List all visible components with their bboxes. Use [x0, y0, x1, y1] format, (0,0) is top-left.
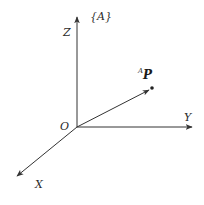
- vector-label: P: [142, 68, 153, 82]
- origin-label: O: [60, 120, 69, 133]
- x-axis-label: X: [34, 178, 44, 191]
- position-vector-p: [77, 90, 149, 127]
- frame-label: {A}: [90, 10, 112, 23]
- z-axis-label: Z: [62, 26, 71, 39]
- x-axis: [17, 127, 77, 176]
- y-axis-label: Y: [184, 111, 193, 124]
- point-p: [150, 86, 154, 90]
- coordinate-frame-diagram: Z {A} Y O X A P: [0, 0, 204, 205]
